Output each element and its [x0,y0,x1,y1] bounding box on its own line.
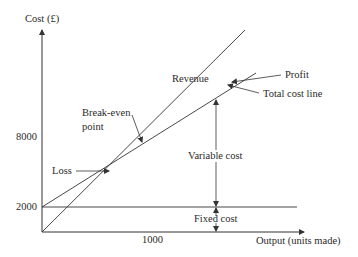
loss-label: Loss [52,165,72,176]
x-axis-label: Output (units made) [256,235,341,247]
revenue-label: Revenue [172,73,209,84]
y-tick-2000: 2000 [16,201,37,212]
y-axis-label: Cost (£) [25,13,60,25]
total-cost-arrow [228,85,259,93]
total-cost-line [42,73,256,207]
break-even-label-1: Break-even [82,107,131,118]
total-cost-label: Total cost line [263,88,323,99]
break-even-label-2: point [82,121,104,132]
x-tick-1000: 1000 [142,234,163,245]
profit-arrow [232,75,281,82]
fixed-cost-label: Fixed cost [194,213,238,224]
revenue-line [42,30,245,232]
profit-label: Profit [285,69,309,80]
y-tick-8000: 8000 [16,131,37,142]
variable-cost-label: Variable cost [188,150,243,161]
break-even-chart: Cost (£) Output (units made) 8000 2000 1… [0,0,358,257]
